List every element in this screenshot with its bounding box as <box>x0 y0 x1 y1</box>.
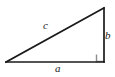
right-triangle-figure: c b a <box>0 0 115 77</box>
vertical-leg-label: b <box>105 30 111 41</box>
horizontal-leg-label: a <box>55 63 61 74</box>
hypotenuse-label: c <box>43 20 48 31</box>
